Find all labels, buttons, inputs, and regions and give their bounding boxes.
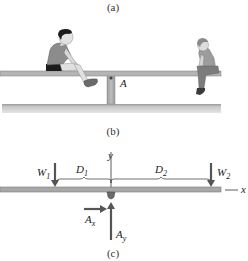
seesaw-scene: A	[0, 29, 221, 113]
seesaw-board	[0, 71, 221, 76]
ground-slab	[2, 104, 221, 113]
child-figure-icon	[196, 38, 219, 95]
seesaw-figure: (a) A	[0, 0, 248, 261]
w2-arrow-icon	[207, 163, 215, 187]
pivot-post	[107, 76, 115, 104]
d2-brace	[111, 177, 210, 183]
x-axis-label: x	[240, 183, 246, 195]
caption-a: (a)	[107, 1, 120, 14]
w2-label: W2	[217, 166, 230, 181]
d1-label: D1	[75, 163, 88, 178]
caption-b: (b)	[107, 125, 120, 138]
caption-c: (c)	[107, 247, 120, 260]
boy-figure-icon	[46, 29, 98, 87]
free-body-diagram: y x D1 D2 W1 W2 Ax	[0, 149, 246, 243]
fbd-beam	[0, 187, 221, 192]
d2-label: D2	[154, 163, 167, 178]
figure-canvas: (a) A	[0, 0, 248, 261]
w1-label: W1	[37, 166, 50, 181]
pivot-label: A	[119, 77, 127, 89]
y-axis-label: y	[107, 149, 113, 161]
ay-label: Ay	[115, 228, 127, 243]
pivot-support-icon	[107, 192, 115, 199]
w1-arrow-icon	[51, 163, 59, 187]
ax-label: Ax	[84, 213, 96, 228]
pivot-pin-icon	[109, 76, 112, 79]
ax-arrow-icon	[84, 205, 107, 213]
ay-arrow-icon	[107, 202, 115, 240]
